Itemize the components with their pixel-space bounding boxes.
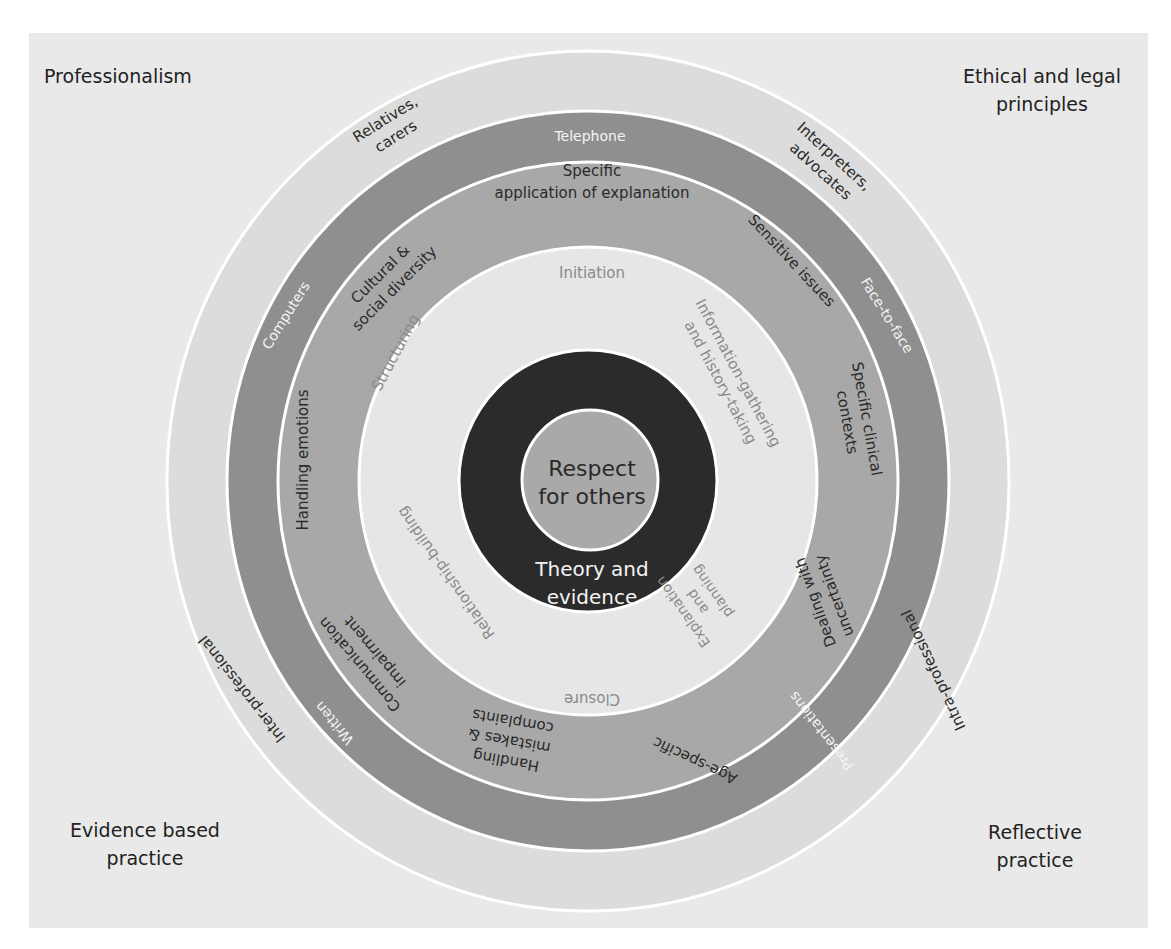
- concentric-rings-diagram: Respect for others Theory and evidence I…: [0, 0, 1171, 949]
- specific-explanation-line-2: application of explanation: [495, 184, 690, 202]
- core-label-line-1: Respect: [548, 456, 636, 481]
- theory-label-line-1: Theory and: [534, 557, 648, 581]
- core-label-line-2: for others: [538, 484, 645, 509]
- closure-label: Closure: [564, 690, 620, 708]
- handling-emotions-label: Handling emotions: [294, 389, 312, 530]
- initiation-label: Initiation: [559, 264, 625, 282]
- telephone-label: Telephone: [553, 128, 625, 144]
- theory-label-line-2: evidence: [547, 585, 638, 609]
- specific-explanation-line-1: Specific: [563, 162, 621, 180]
